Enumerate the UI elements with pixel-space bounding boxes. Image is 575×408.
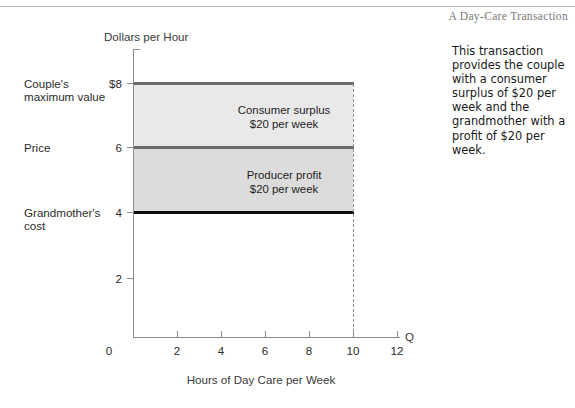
- x-tick-label-6: 6: [250, 344, 280, 357]
- y-tick-2: [127, 278, 133, 279]
- y-tick-label-2: 2: [74, 272, 122, 285]
- producer-profit-annotation: Producer profit $20 per week: [184, 169, 384, 196]
- y-axis-top-cap: [133, 49, 140, 50]
- y-tick-4: [127, 212, 133, 213]
- x-tick-label-0: 0: [96, 344, 122, 357]
- x-tick-4: [221, 331, 222, 337]
- quantity-axis-symbol: Q: [405, 330, 414, 343]
- x-tick-label-10: 10: [338, 344, 368, 357]
- figure-caption-text: This transaction provides the couple wit…: [452, 44, 572, 157]
- x-tick-10: [353, 331, 354, 337]
- consumer-surplus-annotation-title: Consumer surplus: [184, 104, 384, 118]
- x-tick-8: [309, 331, 310, 337]
- price-line: [133, 146, 354, 149]
- consumer-surplus-annotation: Consumer surplus $20 per week: [184, 104, 384, 131]
- grandmothers-cost-line: [133, 211, 354, 214]
- x-tick-label-2: 2: [162, 344, 192, 357]
- x-tick-6: [265, 331, 266, 337]
- couples-maximum-value-line: [133, 82, 354, 85]
- x-axis-line: [133, 337, 400, 338]
- x-tick-12: [397, 331, 398, 337]
- producer-profit-annotation-amount: $20 per week: [184, 183, 384, 197]
- label-price: Price: [24, 141, 120, 154]
- x-tick-label-12: 12: [382, 344, 412, 357]
- x-tick-label-8: 8: [294, 344, 324, 357]
- label-couples-maximum-value: Couple's maximum value: [24, 77, 120, 104]
- producer-profit-annotation-title: Producer profit: [184, 169, 384, 183]
- x-tick-2: [177, 331, 178, 337]
- y-axis-line: [133, 49, 134, 338]
- y-tick-8: [127, 83, 133, 84]
- x-axis-title: Hours of Day Care per Week: [187, 373, 336, 386]
- figure-page: A Day-Care Transaction This transaction …: [0, 0, 575, 408]
- y-tick-6: [127, 147, 133, 148]
- x-tick-label-4: 4: [206, 344, 236, 357]
- supply-demand-chart: Dollars per Hour Hours of Day Care per W…: [0, 0, 440, 408]
- y-axis-title: Dollars per Hour: [104, 30, 188, 43]
- consumer-surplus-annotation-amount: $20 per week: [184, 118, 384, 132]
- label-grandmothers-cost: Grandmother's cost: [24, 206, 120, 233]
